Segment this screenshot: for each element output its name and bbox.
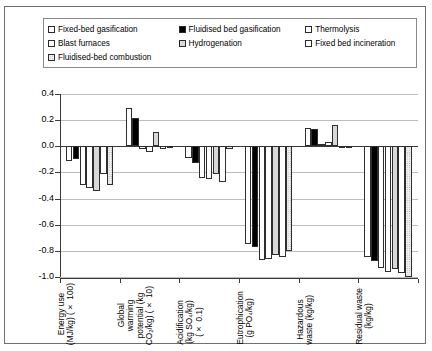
bar	[213, 146, 220, 173]
bar	[93, 146, 100, 190]
bar	[185, 146, 192, 158]
legend-label: Fixed-bed gasification	[58, 25, 138, 34]
legend-swatch-icon	[179, 26, 186, 33]
y-axis-tick-label: -0.4	[12, 194, 54, 203]
x-axis-tick	[358, 279, 359, 283]
bar	[132, 118, 139, 147]
bar-group	[179, 94, 239, 277]
x-axis-tick-label: Global warming potential (kg CO₂/kg) (× …	[117, 286, 183, 345]
bar	[259, 146, 266, 260]
y-axis-tick	[55, 199, 60, 200]
bar-group	[358, 94, 418, 277]
chart-frame: Fixed-bed gasification Fluidised bed gas…	[4, 6, 426, 344]
legend-row-2: Blast furnaces Hydrogenation Fixed bed i…	[48, 36, 414, 50]
bar	[192, 146, 199, 163]
y-axis-labels: 0.40.20.0-0.2-0.4-0.6-0.8-1.0	[8, 7, 54, 351]
bar	[100, 146, 107, 173]
bar	[153, 132, 160, 146]
y-axis-tick	[55, 172, 60, 173]
bar	[199, 146, 206, 177]
chart-legend: Fixed-bed gasification Fluidised bed gas…	[43, 18, 417, 68]
x-axis-tick-label: Residual waste (kg/kg)	[355, 288, 421, 345]
x-axis-tick	[239, 279, 240, 283]
legend-label: Blast furnaces	[58, 39, 110, 48]
bar	[392, 146, 399, 269]
bar	[126, 108, 133, 146]
bar-group	[239, 94, 299, 277]
bar-group	[60, 94, 120, 277]
bar	[107, 146, 114, 185]
bar	[346, 146, 353, 148]
y-axis-line	[60, 94, 61, 277]
legend-row-3: Fluidised-bed combustion	[48, 50, 414, 64]
x-axis-tick	[299, 279, 300, 283]
x-axis-tick	[179, 279, 180, 283]
y-axis-tick-label: 0.4	[12, 89, 54, 98]
legend-item-hydrogenation: Hydrogenation	[179, 39, 306, 48]
bar	[265, 146, 272, 258]
y-axis-tick	[55, 251, 60, 252]
legend-swatch-icon	[305, 26, 312, 33]
legend-row-1: Fixed-bed gasification Fluidised bed gas…	[48, 22, 414, 36]
y-axis-tick	[55, 120, 60, 121]
legend-item-fluidised-bed-gasification: Fluidised bed gasification	[179, 25, 306, 34]
y-axis-tick	[55, 146, 60, 147]
bar-group	[299, 94, 359, 277]
legend-label: Thermolysis	[315, 25, 359, 34]
bar-group	[120, 94, 180, 277]
bar	[167, 146, 174, 148]
bar	[305, 128, 312, 146]
legend-item-thermolysis: Thermolysis	[305, 25, 414, 34]
legend-swatch-icon	[305, 40, 312, 47]
legend-label: Hydrogenation	[189, 39, 242, 48]
bar	[371, 146, 378, 261]
y-axis-tick-label: -0.8	[12, 246, 54, 255]
x-axis-tick-label: Eutrophication (g PO₄/kg)	[236, 291, 302, 345]
legend-label: Fixed bed incineration	[315, 39, 395, 48]
y-axis-tick-label: 0.2	[12, 115, 54, 124]
bar	[398, 146, 405, 273]
bar	[318, 144, 325, 147]
y-axis-tick	[55, 94, 60, 95]
legend-swatch-icon	[179, 40, 186, 47]
x-axis-tick	[418, 279, 419, 283]
y-axis-tick-label: -0.2	[12, 167, 54, 176]
y-axis-tick-label: -1.0	[12, 272, 54, 281]
legend-label: Fluidised bed gasification	[189, 25, 281, 34]
x-axis-labels: Energy use (MJ/kg) (× 100)Global warming…	[60, 279, 418, 345]
bar	[139, 146, 146, 149]
bar	[325, 142, 332, 146]
bar-series-container	[60, 94, 418, 277]
bar	[219, 146, 226, 181]
bar	[226, 146, 233, 149]
bar	[286, 146, 293, 251]
bar	[311, 129, 318, 146]
y-axis-tick	[55, 225, 60, 226]
bar	[80, 146, 87, 185]
x-axis-tick-label: Acidification (kg SO₄/kg) (× 0.1)	[176, 300, 242, 345]
bar	[279, 146, 286, 257]
bar	[73, 146, 80, 159]
y-axis-tick-label: 0.0	[12, 141, 54, 150]
legend-item-blast-furnaces: Blast furnaces	[48, 39, 179, 48]
bar	[252, 146, 259, 247]
bar	[206, 146, 213, 179]
bar	[66, 146, 73, 160]
bar	[245, 146, 252, 244]
x-axis-tick-label: Hazardous waste (kg/kg)	[296, 295, 362, 345]
bar	[405, 146, 412, 277]
bar	[385, 146, 392, 271]
bar	[364, 146, 371, 257]
legend-item-fluidised-bed-combustion: Fluidised-bed combustion	[48, 53, 180, 62]
bar	[332, 125, 339, 146]
bar	[160, 146, 167, 149]
x-axis-tick-label: Energy use (MJ/kg) (× 100)	[57, 283, 123, 345]
bar	[86, 146, 93, 188]
legend-item-fixed-bed-incineration: Fixed bed incineration	[305, 39, 414, 48]
plot-area	[60, 94, 418, 277]
bar	[272, 146, 279, 254]
bar	[339, 146, 346, 148]
bar	[378, 146, 385, 268]
y-axis-tick	[55, 277, 60, 278]
legend-label: Fluidised-bed combustion	[58, 53, 151, 62]
